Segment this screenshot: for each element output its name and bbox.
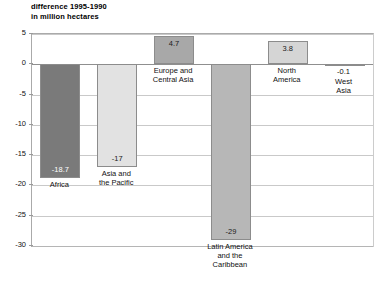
- y-axis-tick-label: -30: [0, 241, 26, 249]
- bar-value-label: 4.7: [155, 40, 193, 48]
- bar-value-label: -17: [98, 155, 136, 163]
- bar-0[interactable]: -18.7: [40, 64, 80, 177]
- y-axis-tick-label: 5: [0, 29, 26, 37]
- bar-2[interactable]: 4.7: [154, 36, 194, 64]
- gridline-neg10: [32, 125, 373, 126]
- y-axis-tick-label: -20: [0, 180, 26, 188]
- gridline-0: [32, 64, 373, 65]
- y-axis-tick-label: -5: [0, 90, 26, 98]
- bar-4[interactable]: 3.8: [268, 41, 308, 64]
- gridline-neg15: [32, 155, 373, 156]
- gridline-neg25: [32, 216, 373, 217]
- y-axis-tick-mark: [29, 63, 33, 64]
- y-axis-tick-mark: [29, 154, 33, 155]
- bar-value-label: -29: [212, 228, 250, 236]
- bar-1[interactable]: -17: [97, 64, 137, 167]
- bar-3[interactable]: -29: [211, 64, 251, 240]
- bar-value-label: -18.7: [41, 166, 79, 174]
- y-axis-tick-label: -25: [0, 211, 26, 219]
- bar-category-label: Asia and the Pacific: [80, 169, 152, 187]
- y-axis-tick-label: 0: [0, 59, 26, 67]
- bar-value-label: -0.1: [316, 68, 372, 76]
- y-axis-tick-label: -15: [0, 150, 26, 158]
- bar-category-label: Latin America and the Caribbean: [194, 242, 266, 269]
- y-axis-tick-mark: [29, 215, 33, 216]
- y-axis-tick-mark: [29, 245, 33, 246]
- bar-value-label: 3.8: [269, 45, 307, 53]
- plot-area: -18.7-174.7-293.8: [31, 33, 374, 247]
- y-axis-tick-mark: [29, 124, 33, 125]
- y-axis-tick-mark: [29, 33, 33, 34]
- y-axis-tick-mark: [29, 94, 33, 95]
- y-axis-tick-label: -10: [0, 120, 26, 128]
- chart-title: difference 1995-1990 in million hectares: [31, 2, 107, 21]
- bar-category-label: Europe and Central Asia: [137, 66, 209, 84]
- bar-5[interactable]: [325, 64, 365, 66]
- gridline-5: [32, 34, 373, 35]
- bar-category-label: West Asia: [308, 77, 380, 95]
